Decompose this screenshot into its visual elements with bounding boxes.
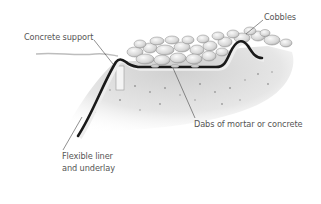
label-flexible-liner: Flexible liner and underlay — [62, 150, 115, 174]
label-mortar-dabs: Dabs of mortar or concrete — [194, 118, 302, 130]
mortar-dabs — [151, 65, 199, 68]
leader-concrete-support — [94, 40, 113, 64]
label-liner-line2: and underlay — [62, 162, 115, 174]
label-cobbles: Cobbles — [264, 11, 296, 23]
concrete-support — [116, 66, 124, 90]
label-liner-line1: Flexible liner — [62, 150, 115, 162]
label-concrete-support: Concrete support — [24, 31, 93, 43]
